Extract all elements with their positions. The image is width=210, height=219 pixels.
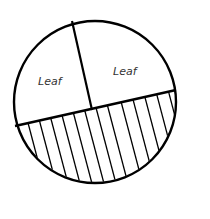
horizontal-chord <box>15 90 176 126</box>
leaf-label-left: Leaf <box>38 75 64 88</box>
leaf-label-right: Leaf <box>113 65 139 78</box>
circle-outline <box>14 21 176 183</box>
hatched-region <box>10 82 191 195</box>
vertical-divider <box>72 21 92 110</box>
leaf-diagram: Leaf Leaf <box>0 0 210 219</box>
